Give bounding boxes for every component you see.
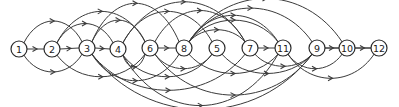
graph-canvas: 123468571191012 [0,0,399,107]
node-label: 10 [341,43,353,54]
edge-7-to-11 [258,46,275,51]
node-3: 3 [79,40,95,56]
edge-2-to-6 [57,9,145,43]
node-label: 4 [115,44,121,55]
arrowhead-icon [198,103,203,107]
edge-line [92,3,179,42]
edge-line [288,54,374,78]
edge-11-to-10 [288,54,342,71]
node-label: 7 [247,43,253,54]
node-label: 1 [16,44,22,55]
node-6: 6 [142,40,158,56]
node-label: 2 [49,44,55,55]
edge-3-to-7 [92,54,245,93]
edge-1-to-2 [27,47,44,52]
edge-line [189,20,278,42]
edge-6-to-5 [155,54,212,71]
edge-line [123,11,212,43]
node-10: 10 [339,40,355,56]
edge-4-to-6 [123,54,145,70]
node-1: 1 [11,41,27,57]
node-label: 9 [314,43,320,54]
node-label: 11 [277,43,289,54]
node-label: 12 [373,43,385,54]
node-label: 6 [147,43,153,54]
node-5: 5 [209,40,225,56]
arrowhead-icon [262,0,267,1]
edge-3-to-6 [92,18,145,42]
edge-8-to-11 [189,18,278,42]
edge-2-to-3 [60,46,79,51]
node-label: 8 [181,43,187,54]
edge-3-to-8 [92,1,179,42]
edge-line [189,8,312,42]
node-7: 7 [242,40,258,56]
node-11: 11 [275,40,291,56]
node-label: 5 [214,43,220,54]
node-8: 8 [176,40,192,56]
edge-3-to-4 [95,46,110,51]
node-2: 2 [44,41,60,57]
node-12: 12 [371,40,387,56]
edge-4-to-5 [123,9,212,43]
node-4: 4 [110,41,126,57]
node-9: 9 [309,40,325,56]
node-label: 3 [84,43,90,54]
edge-5-to-9 [222,54,312,76]
edge-11-to-12 [288,54,374,81]
edge-4-to-7 [123,0,245,43]
precedence-graph-diagram: 123468571191012 [0,0,399,107]
edge-line [24,21,82,43]
edge-6-to-8 [158,46,176,51]
